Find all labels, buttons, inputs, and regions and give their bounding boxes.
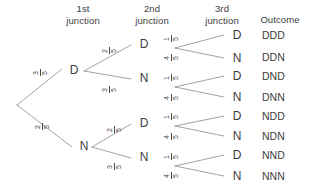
branch-nd-to-ndd — [175, 116, 224, 126]
node-j2-nn: N — [136, 151, 152, 163]
prob-j3-dnn-denominator: 5 — [172, 96, 180, 100]
outcome-dnd: DND — [262, 71, 285, 82]
outcome-ddd: DDD — [262, 30, 285, 41]
prob-j3-dnd-numerator: 1 — [163, 76, 171, 80]
probability-tree-diagram: 1st junction 2nd junction 3rd junction O… — [0, 0, 317, 195]
node-j3-dnn: N — [229, 91, 245, 103]
prob-j3-dnn: 4 5 — [161, 91, 181, 105]
prob-j2-dd-denominator: 5 — [110, 49, 118, 53]
node-j3-ndd: D — [229, 110, 245, 122]
branch-dn-to-dnd — [175, 76, 224, 87]
prob-j1-n-numerator: 2 — [34, 125, 42, 129]
node-j3-nnn: N — [229, 170, 245, 182]
prob-j1-d: 3 5 — [30, 66, 50, 80]
outcome-ndd: NDD — [262, 111, 285, 122]
branch-nd-to-ndn — [175, 126, 224, 136]
node-j3-ndn: N — [229, 130, 245, 142]
prob-j2-nd: 2 5 — [104, 123, 124, 137]
prob-j3-ndd-numerator: 1 — [163, 115, 171, 119]
prob-j3-ddn-denominator: 5 — [172, 56, 180, 60]
prob-j3-ddn-numerator: 4 — [163, 56, 171, 60]
prob-j3-nnn-numerator: 4 — [163, 174, 171, 178]
header-1st-junction-line2: junction — [55, 15, 111, 27]
branch-d-to-dn — [84, 71, 131, 79]
header-1st-junction-line1: 1st — [77, 3, 90, 14]
node-j1-d: D — [66, 64, 82, 76]
node-j1-n: N — [76, 140, 92, 152]
prob-j3-nnn: 4 5 — [161, 169, 181, 183]
prob-j3-ndd-denominator: 5 — [172, 115, 180, 119]
prob-j3-dnd-denominator: 5 — [172, 76, 180, 80]
prob-j3-ddd-denominator: 5 — [172, 37, 180, 41]
node-j2-nd: D — [136, 117, 152, 129]
header-3rd-junction-line1: 3rd — [215, 3, 229, 14]
prob-j2-dn-numerator: 3 — [101, 88, 109, 92]
prob-j3-ndn-denominator: 5 — [172, 135, 180, 139]
branch-dd-to-ddd — [175, 35, 224, 48]
prob-j1-n-denominator: 5 — [43, 125, 51, 129]
prob-j3-dnn-numerator: 4 — [163, 96, 171, 100]
prob-j1-d-denominator: 5 — [41, 71, 49, 75]
prob-j2-dn: 3 5 — [99, 83, 119, 97]
prob-j2-nd-numerator: 2 — [106, 128, 114, 132]
prob-j3-nnn-denominator: 5 — [172, 174, 180, 178]
prob-j3-ddn: 4 5 — [161, 51, 181, 65]
node-j3-nnd: D — [229, 149, 245, 161]
prob-j2-dd: 2 5 — [99, 44, 119, 58]
node-j2-dn: N — [136, 72, 152, 84]
header-2nd-junction-line1: 2nd — [144, 3, 160, 14]
prob-j3-dnd: 1 5 — [161, 71, 181, 85]
prob-j1-d-numerator: 3 — [32, 71, 40, 75]
prob-j3-ddd-numerator: 1 — [163, 37, 171, 41]
prob-j3-nnd: 1 5 — [161, 150, 181, 164]
branch-dd-to-ddn — [175, 48, 224, 58]
header-3rd-junction-line2: junction — [194, 15, 250, 27]
header-outcome-line1: Outcome — [260, 14, 299, 25]
branch-nn-to-nnd — [175, 155, 224, 166]
branch-nn-to-nnn — [175, 166, 224, 176]
node-j3-dnd: D — [229, 70, 245, 82]
prob-j2-dd-numerator: 2 — [101, 49, 109, 53]
prob-j3-ddd: 1 5 — [161, 32, 181, 46]
header-2nd-junction-line2: junction — [124, 15, 180, 27]
outcome-nnd: NND — [262, 150, 285, 161]
outcome-ndn: NDN — [262, 131, 285, 142]
node-j2-dd: D — [136, 38, 152, 50]
prob-j3-ndn: 4 5 — [161, 130, 181, 144]
header-1st-junction: 1st junction — [55, 3, 111, 26]
prob-j2-nd-denominator: 5 — [115, 128, 123, 132]
prob-j3-nnd-denominator: 5 — [172, 155, 180, 159]
node-j3-ddd: D — [229, 29, 245, 41]
prob-j3-nnd-numerator: 1 — [163, 155, 171, 159]
node-j3-ddn: N — [229, 52, 245, 64]
branch-n-to-nn — [92, 147, 131, 158]
prob-j1-n: 2 5 — [32, 120, 52, 134]
outcome-dnn: DNN — [262, 92, 285, 103]
header-3rd-junction: 3rd junction — [194, 3, 250, 26]
header-2nd-junction: 2nd junction — [124, 3, 180, 26]
header-outcome: Outcome — [252, 14, 308, 26]
prob-j2-nn-numerator: 3 — [106, 165, 114, 169]
prob-j2-nn-denominator: 5 — [115, 165, 123, 169]
prob-j3-ndd: 1 5 — [161, 110, 181, 124]
prob-j2-nn: 3 5 — [104, 160, 124, 174]
prob-j3-ndn-numerator: 4 — [163, 135, 171, 139]
branch-dn-to-dnn — [175, 87, 224, 97]
outcome-nnn: NNN — [262, 171, 285, 182]
prob-j2-dn-denominator: 5 — [110, 88, 118, 92]
outcome-ddn: DDN — [262, 52, 285, 63]
